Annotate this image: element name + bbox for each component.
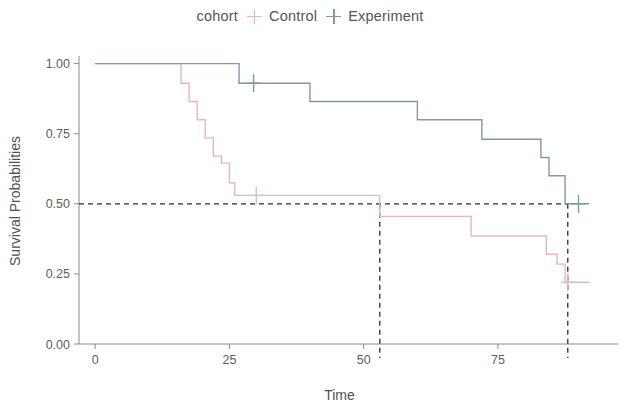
- legend-item-experiment[interactable]: Experiment: [326, 8, 423, 24]
- censor-marker: [572, 195, 586, 213]
- x-tick-label: 75: [491, 353, 505, 367]
- legend-label-experiment: Experiment: [348, 8, 423, 24]
- series-layer: [95, 64, 589, 292]
- legend-title: cohort: [197, 8, 239, 24]
- chart-canvas: 1.000.750.500.250.00 0255075 TimeSurviva…: [0, 0, 620, 410]
- y-tick-label: 0.00: [46, 338, 70, 352]
- legend-label-control: Control: [269, 8, 317, 24]
- chart-legend: cohort Control Experiment: [0, 4, 620, 28]
- censor-marker: [249, 186, 263, 204]
- x-tick-label: 0: [92, 353, 99, 367]
- censor-marker: [561, 273, 575, 291]
- plus-marker-icon: [247, 9, 262, 24]
- survival-plot: cohort Control Experiment 1.000.750.500.…: [0, 0, 620, 410]
- reference-lines: [79, 204, 568, 358]
- survival-curve-control: [95, 64, 589, 283]
- x-tick-label: 25: [222, 353, 236, 367]
- x-axis: 0255075: [79, 344, 618, 367]
- x-axis-title: Time: [324, 387, 355, 403]
- x-tick-label: 50: [357, 353, 371, 367]
- survival-curve-experiment: [95, 64, 589, 204]
- legend-item-control[interactable]: Control: [247, 8, 317, 24]
- y-tick-label: 0.25: [46, 267, 70, 281]
- plus-marker-icon: [326, 9, 341, 24]
- y-axis: 1.000.750.500.250.00: [46, 56, 79, 352]
- y-axis-title: Survival Probabilities: [7, 136, 23, 266]
- y-tick-label: 1.00: [46, 57, 70, 71]
- censor-marker: [247, 74, 261, 92]
- y-tick-label: 0.75: [46, 127, 70, 141]
- y-tick-label: 0.50: [46, 197, 70, 211]
